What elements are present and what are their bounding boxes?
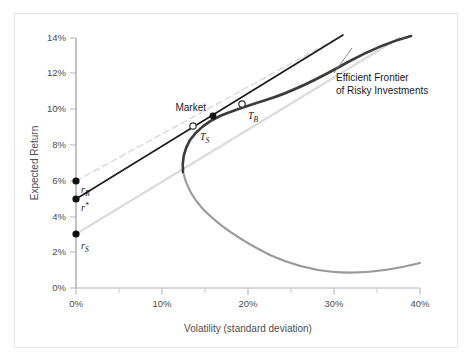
efficient-frontier-chart: 14% 12% 10% 8% 6% 4% 2% 0% 0% 10% 20% 3 xyxy=(0,0,472,362)
marker-rs-dot xyxy=(72,230,79,237)
x-axis-ticks xyxy=(76,288,420,295)
marker-rb-dot xyxy=(72,177,79,184)
y-tick-label: 14% xyxy=(47,32,67,43)
y-tick-label: 12% xyxy=(47,67,67,78)
marker-market-label: Market xyxy=(175,102,206,113)
y-tick-label: 10% xyxy=(47,103,67,114)
y-tick-label: 2% xyxy=(52,246,66,257)
marker-rs-label: rS xyxy=(81,240,89,254)
y-tick-labels: 14% 12% 10% 8% 6% 4% 2% 0% xyxy=(47,32,67,293)
x-tick-label: 10% xyxy=(152,298,172,309)
y-tick-label: 8% xyxy=(52,139,66,150)
marker-tb-circle xyxy=(239,101,245,107)
marker-rstar-label: r* xyxy=(81,201,89,213)
x-tick-label: 30% xyxy=(324,298,344,309)
x-tick-label: 20% xyxy=(238,298,258,309)
marker-tb-label: TB xyxy=(248,110,259,124)
y-axis-title: Expected Return xyxy=(29,126,40,201)
y-tick-label: 6% xyxy=(52,175,66,186)
series-cml-savings xyxy=(76,38,399,234)
series-cml-borrowing-dashed xyxy=(76,35,343,181)
y-tick-label: 0% xyxy=(52,282,66,293)
marker-ts-circle xyxy=(190,123,196,129)
annotation-line-1: Efficient Frontier xyxy=(336,72,409,83)
marker-market-dot xyxy=(210,113,217,120)
y-tick-label: 4% xyxy=(52,211,66,222)
y-axis-ticks xyxy=(70,38,76,288)
x-tick-labels: 0% 10% 20% 30% 40% xyxy=(69,298,430,309)
x-axis-title: Volatility (standard deviation) xyxy=(184,323,312,334)
marker-rstar-dot xyxy=(72,195,79,202)
series-tangent-line xyxy=(76,35,343,199)
annotation-line-2: of Risky Investments xyxy=(336,85,428,96)
chart-page: 14% 12% 10% 8% 6% 4% 2% 0% 0% 10% 20% 3 xyxy=(0,0,472,362)
x-tick-label: 40% xyxy=(410,298,430,309)
x-tick-label: 0% xyxy=(69,298,83,309)
marker-ts-label: TS xyxy=(200,131,210,145)
